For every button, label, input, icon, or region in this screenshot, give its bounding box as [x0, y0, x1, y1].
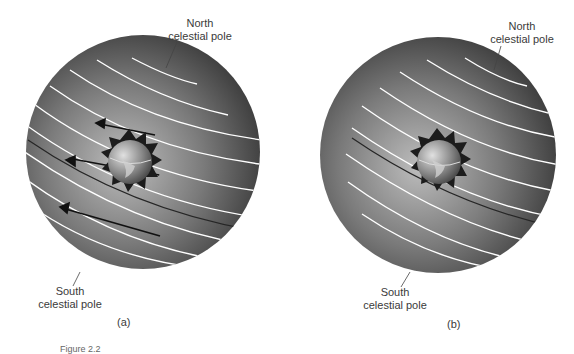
south-label-line1: South	[350, 286, 440, 299]
south-label-line1: South	[25, 285, 115, 298]
south-pole-leader-a	[73, 272, 80, 286]
north-label-line1: North	[472, 20, 572, 33]
south-pole-label-b: South celestial pole	[350, 286, 440, 312]
north-label-line2: celestial pole	[472, 33, 572, 46]
panel-b-sphere	[320, 37, 560, 287]
south-label-line2: celestial pole	[25, 298, 115, 311]
panel-a-sphere	[22, 35, 268, 286]
north-pole-label-b: North celestial pole	[472, 20, 572, 46]
south-pole-label-a: South celestial pole	[25, 285, 115, 311]
figure-caption: Figure 2.2	[60, 344, 101, 354]
panel-label-b: (b)	[447, 318, 460, 330]
panel-label-a: (a)	[117, 316, 130, 328]
south-label-line2: celestial pole	[350, 299, 440, 312]
north-label-line2: celestial pole	[145, 30, 255, 43]
north-label-line1: North	[145, 17, 255, 30]
south-pole-leader-b	[401, 272, 410, 287]
north-pole-label-a: North celestial pole	[145, 17, 255, 43]
